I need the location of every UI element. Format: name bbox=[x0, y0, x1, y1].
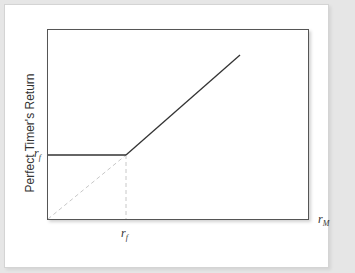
x-axis-label: rM bbox=[318, 212, 329, 228]
x-tick-rf: rf bbox=[121, 226, 128, 242]
y-axis-label: Perfect Timer's Return bbox=[23, 63, 37, 203]
chart-lines bbox=[0, 0, 355, 273]
dashed-45-line bbox=[48, 155, 126, 219]
y-tick-rf: rf bbox=[34, 146, 41, 162]
upward-payoff-segment bbox=[126, 55, 240, 155]
